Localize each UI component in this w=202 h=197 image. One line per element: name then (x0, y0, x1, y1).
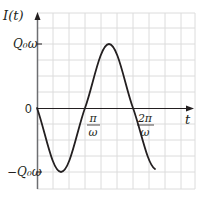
y-tick-label-min: −Q₀ω (7, 165, 42, 179)
current-vs-time-graph: I(t) t Q₀ω 0 −Q₀ω π ω 2π ω (0, 0, 202, 197)
svg-text:π: π (88, 112, 97, 125)
svg-text:2π: 2π (137, 112, 153, 125)
grid (37, 13, 195, 189)
x-tick-label-2pi-over-omega: 2π ω (137, 112, 154, 139)
x-axis-label: t (185, 112, 191, 127)
x-tick-label-pi-over-omega: π ω (87, 112, 100, 139)
x-axis-arrow-icon (186, 106, 194, 112)
x-axis (37, 106, 194, 112)
svg-text:ω: ω (89, 126, 98, 139)
y-tick-label-zero: 0 (25, 102, 32, 116)
y-axis-label: I(t) (2, 8, 24, 23)
y-tick-label-max: Q₀ω (13, 37, 38, 51)
svg-text:ω: ω (141, 126, 150, 139)
